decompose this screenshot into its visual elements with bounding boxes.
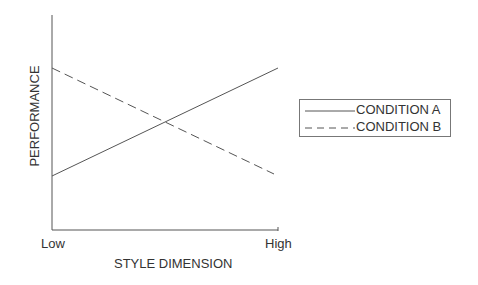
x-axis-title: STYLE DIMENSION — [114, 256, 232, 271]
legend-label: CONDITION B — [356, 119, 441, 134]
x-tick-high: High — [265, 236, 292, 251]
solid-line-swatch-icon — [300, 102, 356, 118]
legend: CONDITION A CONDITION B — [299, 99, 451, 137]
y-axis-title: PERFORMANCE — [27, 65, 42, 166]
chart-plot-area — [0, 0, 478, 285]
legend-item-condition-a: CONDITION A — [300, 102, 450, 118]
legend-item-condition-b: CONDITION B — [300, 119, 450, 135]
dashed-line-swatch-icon — [300, 119, 356, 135]
x-tick-low: Low — [41, 236, 65, 251]
legend-label: CONDITION A — [356, 102, 441, 117]
series-condition-b-line — [52, 68, 274, 174]
